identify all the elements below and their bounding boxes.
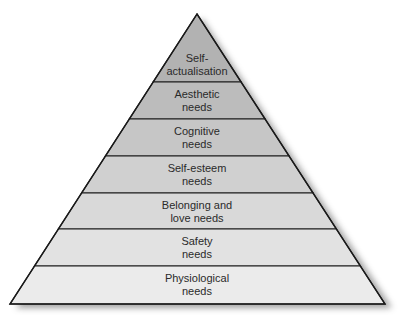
pyramid-graphic — [0, 0, 405, 317]
level-belonging-love-needs-label: Belonging and love needs — [117, 199, 277, 225]
level-safety-needs-label: Safety needs — [117, 235, 277, 261]
level-self-esteem-needs-label: Self-esteem needs — [117, 162, 277, 188]
level-self-actualisation-label: Self- actualisation — [117, 52, 277, 78]
level-physiological-needs-label: Physiological needs — [117, 272, 277, 298]
level-aesthetic-needs-label: Aesthetic needs — [117, 88, 277, 114]
pyramid-diagram: Self- actualisation Aesthetic needs Cogn… — [0, 0, 405, 317]
level-cognitive-needs-label: Cognitive needs — [117, 125, 277, 151]
